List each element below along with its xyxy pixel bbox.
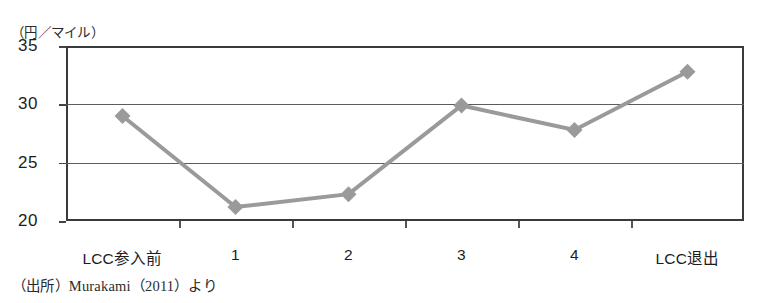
y-tick-label: 35: [0, 36, 38, 56]
x-tick-mark: [179, 221, 181, 228]
x-tick-mark: [292, 221, 294, 228]
x-tick-label: 3: [457, 246, 466, 264]
chart-figure: （円／マイル） LCC参入前1234LCC退出 （出所）Murakami（201…: [0, 0, 760, 303]
x-tick-label: LCC参入前: [82, 246, 162, 268]
data-point-marker: [680, 64, 696, 80]
y-tick-label: 30: [0, 94, 38, 114]
y-tick-mark: [59, 221, 66, 223]
line-series-layer: [66, 46, 744, 221]
y-tick-label: 25: [0, 153, 38, 173]
series-markers: [115, 64, 696, 215]
plot-area: [66, 46, 744, 221]
x-tick-mark: [518, 221, 520, 228]
y-tick-label: 20: [0, 211, 38, 231]
y-tick-mark: [59, 163, 66, 165]
x-tick-label: 1: [231, 246, 240, 264]
series-polyline: [123, 72, 688, 207]
x-tick-label: LCC退出: [655, 246, 719, 268]
y-tick-mark: [59, 46, 66, 48]
x-tick-mark: [405, 221, 407, 228]
data-point-marker: [567, 122, 583, 138]
source-note: （出所）Murakami（2011）より: [12, 274, 217, 295]
y-tick-mark: [59, 104, 66, 106]
x-tick-label: 2: [344, 246, 353, 264]
x-tick-mark: [631, 221, 633, 228]
x-tick-label: 4: [570, 246, 579, 264]
